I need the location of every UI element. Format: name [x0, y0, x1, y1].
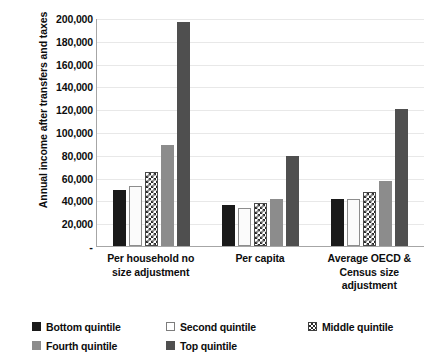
legend-swatch-icon: [32, 322, 41, 331]
y-axis-tick-labels: 200,000180,000160,000140,000120,000100,0…: [27, 0, 93, 260]
plot-area: [96, 19, 424, 247]
x-axis-category-labels: Per household no size adjustmentPer capi…: [96, 252, 424, 310]
bar[interactable]: [222, 205, 235, 246]
bar[interactable]: [331, 199, 344, 246]
legend-item[interactable]: Bottom quintile: [22, 321, 158, 333]
x-axis-category-label: Per capita: [205, 252, 314, 310]
y-tick-label: 40,000: [27, 196, 93, 206]
bar-chart: Annual income after transfers and taxes …: [0, 0, 432, 359]
legend-swatch-icon: [166, 341, 175, 350]
y-tick-label: 80,000: [27, 151, 93, 161]
y-tick-label: 180,000: [27, 37, 93, 47]
legend-item[interactable]: Top quintile: [158, 340, 302, 352]
legend-label: Top quintile: [180, 340, 237, 352]
bar[interactable]: [129, 186, 142, 246]
bar[interactable]: [238, 208, 251, 246]
y-tick-label: 200,000: [27, 14, 93, 24]
legend-label: Fourth quintile: [46, 340, 117, 352]
y-tick-label: 160,000: [27, 60, 93, 70]
bar-group: [315, 19, 424, 246]
x-axis-category-label: Per household no size adjustment: [96, 252, 205, 310]
chart-legend: Bottom quintileSecond quintileMiddle qui…: [22, 317, 422, 357]
y-tick-label: -: [27, 242, 93, 252]
bar[interactable]: [363, 192, 376, 246]
bar[interactable]: [145, 172, 158, 246]
legend-item[interactable]: Middle quintile: [302, 321, 422, 333]
y-tick-label: 100,000: [27, 128, 93, 138]
bar[interactable]: [347, 199, 360, 246]
y-tick-label: 140,000: [27, 82, 93, 92]
legend-item[interactable]: Second quintile: [158, 321, 302, 333]
x-axis-category-label: Average OECD & Census size adjustment: [315, 252, 424, 310]
y-tick-label: 120,000: [27, 105, 93, 115]
bar[interactable]: [254, 203, 267, 246]
legend-swatch-icon: [32, 341, 41, 350]
legend-item[interactable]: Fourth quintile: [22, 340, 158, 352]
legend-swatch-icon: [308, 322, 317, 331]
bar[interactable]: [379, 181, 392, 246]
y-tick-label: 60,000: [27, 174, 93, 184]
legend-swatch-icon: [166, 322, 175, 331]
bar-group: [97, 19, 206, 246]
legend-label: Second quintile: [180, 321, 256, 333]
bar-group: [206, 19, 315, 246]
bar[interactable]: [286, 156, 299, 246]
bar[interactable]: [177, 22, 190, 246]
legend-row: Bottom quintileSecond quintileMiddle qui…: [22, 317, 422, 336]
legend-label: Middle quintile: [322, 321, 393, 333]
bar-groups: [97, 19, 424, 246]
y-tick-label: 20,000: [27, 219, 93, 229]
bar[interactable]: [161, 145, 174, 246]
bar[interactable]: [270, 199, 283, 246]
legend-label: Bottom quintile: [46, 321, 121, 333]
bar[interactable]: [113, 190, 126, 246]
bar[interactable]: [395, 109, 408, 246]
legend-row: Fourth quintileTop quintile: [22, 336, 422, 355]
